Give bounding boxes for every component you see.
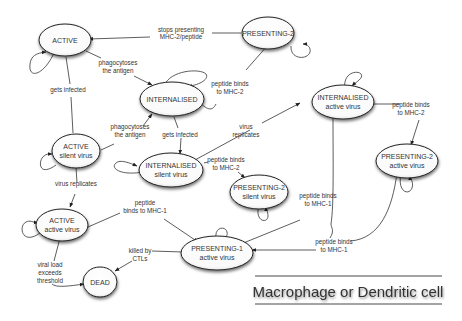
edge-label-peptide-mhc2-3b: to MHC-2 [398, 109, 425, 116]
node-presenting2-label: PRESENTING-2 [242, 30, 294, 37]
diagram-title: Macrophage or Dendritic cell [253, 283, 444, 300]
node-internalised-active-line1: INTERNALISED [318, 94, 369, 101]
node-active-silent[interactable]: ACTIVE silent virus [52, 134, 100, 168]
node-presenting1-active[interactable]: PRESENTING-1 active virus [181, 236, 253, 270]
node-active-silent-line1: ACTIVE [63, 143, 89, 150]
edge-label-peptide-mhc2-2b: to MHC-2 [213, 164, 240, 171]
diagram-title-block: Macrophage or Dendritic cell [253, 276, 444, 304]
node-presenting2-silent[interactable]: PRESENTING-2 silent virus [230, 175, 288, 209]
edge-label-peptide-mhc1-3b: to MHC-1 [321, 246, 348, 253]
edge-active-active-dead [54, 238, 60, 261]
node-dead[interactable]: DEAD [83, 267, 117, 297]
node-presenting2-silent-line2: silent virus [242, 193, 276, 200]
node-internalised-active-line2: active virus [325, 103, 361, 110]
edge-label-peptide-mhc2-3a: peptide binds [392, 101, 429, 109]
edge-internalised-active-presenting1 [330, 117, 333, 238]
node-presenting2-active-line1: PRESENTING-2 [381, 153, 433, 160]
edge-internalised-gets-infected [174, 117, 178, 128]
node-presenting2-active[interactable]: PRESENTING-2 active virus [376, 144, 438, 178]
node-internalised-silent-line1: INTERNALISED [146, 162, 197, 169]
node-presenting2[interactable]: PRESENTING-2 [242, 17, 294, 49]
node-presenting1-active-line1: PRESENTING-1 [191, 245, 243, 252]
node-internalised-silent[interactable]: INTERNALISED silent virus [139, 153, 203, 187]
edge-active-active-dead-b [52, 284, 84, 286]
edge-label-peptide-mhc1-3a: peptide binds [315, 238, 352, 246]
edge-presenting1-dead [152, 251, 183, 252]
edge-label-peptide-mhc2-2a: peptide binds [207, 156, 244, 164]
edge-presenting2-active-presenting1 [351, 173, 397, 241]
node-internalised[interactable]: INTERNALISED [140, 82, 204, 116]
edge-active-silent-replicates-b [70, 194, 75, 207]
edge-presenting1-dead-b [115, 261, 132, 271]
edge-label-gets-infected-2: gets infected [162, 131, 198, 139]
edge-internalised-silent-replicates-b [262, 103, 300, 123]
edge-label-virus-replicates-1a: virus [239, 123, 252, 130]
node-active-active-line2: active virus [44, 226, 80, 233]
edge-internalised-gets-infected-b [180, 138, 181, 154]
node-presenting2-active-line2: active virus [389, 162, 425, 169]
edge-active-gets-infected-b [71, 97, 73, 133]
edge-label-phago-1a: phagocytoses [99, 59, 138, 67]
node-presenting1-active-line2: active virus [199, 254, 235, 261]
edge-label-stops-presenting-2: MHC-2/peptide [160, 33, 203, 41]
node-internalised-active[interactable]: INTERNALISED active virus [312, 85, 374, 119]
edge-active-active-presenting1-b [164, 219, 198, 242]
edge-presenting2-self-loop [291, 44, 310, 57]
edge-active-self-loop [30, 52, 54, 73]
edge-label-killed-a: killed by [129, 247, 153, 255]
edge-active-silent-internalised [101, 144, 114, 150]
node-active-label: ACTIVE [52, 37, 78, 44]
edge-label-peptide-mhc2-1a: peptide binds [211, 80, 248, 88]
state-diagram: ACTIVE PRESENTING-2 INTERNALISED ACTIVE … [0, 0, 462, 321]
node-presenting2-silent-line1: PRESENTING-2 [233, 184, 285, 191]
edge-label-phago-1b: the antigen [102, 67, 134, 75]
edge-active-active-presenting1 [88, 213, 120, 227]
edge-stops-presenting-tail [89, 37, 150, 39]
edge-label-peptide-mhc1-1a: peptide [135, 199, 156, 207]
edge-label-virus-replicates-2: virus replicates [55, 180, 97, 188]
node-active-silent-line2: silent virus [59, 152, 93, 159]
node-dead-label: DEAD [90, 279, 109, 286]
edge-label-viral-load-b: exceeds [38, 269, 61, 276]
edge-label-viral-load-c: threshold [37, 277, 63, 284]
edge-label-virus-replicates-1b: replicates [233, 131, 260, 139]
node-active[interactable]: ACTIVE [39, 24, 91, 56]
edge-label-phago-2b: the antigen [114, 131, 146, 139]
edge-label-gets-infected-1: gets infected [50, 86, 86, 94]
edge-label-viral-load-a: viral load [37, 261, 63, 268]
edge-active-internalised [86, 51, 101, 58]
edge-active-internalised-b [134, 76, 152, 85]
node-internalised-label: INTERNALISED [147, 96, 198, 103]
edge-internalised-active-presenting2-active-b [411, 120, 419, 145]
edge-label-killed-b: CTLs [132, 255, 147, 262]
edge-label-peptide-mhc1-2a: peptide binds [299, 192, 336, 200]
node-active-active[interactable]: ACTIVE active virus [36, 209, 88, 241]
edge-label-peptide-mhc1-2b: to MHC-1 [305, 200, 332, 207]
edge-label-peptide-mhc2-1b: to MHC-2 [217, 88, 244, 95]
edge-label-phago-2a: phagocytoses [111, 123, 150, 131]
edge-label-peptide-mhc1-1b: binds to MHC-1 [123, 207, 167, 214]
node-internalised-silent-line2: silent virus [154, 171, 188, 178]
edge-active-gets-infected [66, 57, 70, 84]
node-active-active-line1: ACTIVE [49, 217, 75, 224]
